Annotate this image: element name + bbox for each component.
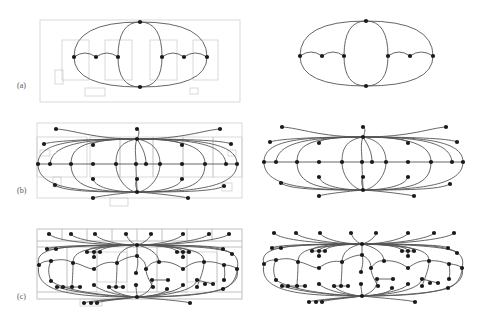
graph-node — [82, 301, 86, 305]
graph-node — [78, 285, 82, 289]
graph-node — [202, 260, 206, 264]
graph-edge — [137, 139, 237, 164]
graph-node — [361, 188, 365, 192]
graph-edge — [159, 262, 183, 269]
graph-node — [135, 137, 139, 141]
graph-node — [270, 246, 274, 250]
graph-edge — [116, 263, 117, 287]
plan-room — [153, 137, 183, 177]
graph-node — [420, 284, 424, 288]
graph-edge — [49, 261, 51, 281]
graph-node — [114, 162, 118, 166]
graph-edge — [362, 244, 429, 261]
graph-edge — [38, 139, 137, 164]
graph-node — [230, 252, 234, 256]
graph-node — [406, 160, 410, 164]
graph-node — [342, 54, 346, 58]
panel-label-a: (a) — [17, 81, 26, 90]
graph-edge — [361, 255, 363, 272]
graph-edge — [204, 262, 224, 265]
graph-edge — [300, 52, 322, 56]
graph-node — [317, 266, 321, 270]
graph-node — [262, 160, 266, 164]
graph-node — [360, 294, 364, 298]
graph-node — [91, 196, 95, 200]
graph-node — [187, 250, 191, 254]
graph-edge — [118, 22, 140, 57]
graph-node — [221, 247, 225, 251]
graph-node — [49, 259, 53, 263]
graph-edge — [363, 162, 463, 190]
graph-node — [274, 278, 278, 282]
graph-node — [360, 242, 364, 246]
graph-edge — [363, 137, 372, 162]
graph-node — [431, 54, 435, 58]
graph-edge — [344, 56, 366, 86]
graph-edge — [137, 164, 160, 192]
graph-node — [455, 140, 459, 144]
graph-edge — [362, 288, 392, 296]
graph-node — [91, 162, 95, 166]
graph-node — [428, 281, 432, 285]
graph-node — [134, 283, 138, 287]
graph-node — [317, 175, 321, 179]
graph-node — [188, 301, 192, 305]
graph-node — [94, 55, 98, 59]
graph-edge — [274, 233, 362, 244]
graph-node — [320, 54, 324, 58]
graph-edge — [263, 244, 362, 264]
graph-node — [72, 55, 76, 59]
graph-edge — [366, 56, 388, 86]
graph-edge — [300, 21, 366, 56]
graph-node — [436, 281, 440, 285]
graph-node — [298, 54, 302, 58]
graph-node — [279, 246, 283, 250]
graph-edge — [362, 279, 377, 296]
graph-node — [115, 261, 119, 265]
graph-edge — [72, 263, 73, 287]
graph-edge — [297, 262, 298, 286]
graph-node — [307, 300, 311, 304]
graph-node — [406, 141, 410, 145]
graph-node — [452, 231, 456, 235]
graph-node — [54, 127, 58, 131]
graph-node — [135, 127, 139, 131]
floor-plan-b — [37, 123, 242, 206]
plan-room — [87, 229, 112, 241]
graph-node — [157, 260, 161, 264]
graph-standalone-b — [262, 125, 465, 198]
graph-node — [427, 259, 431, 263]
graph-node — [70, 285, 74, 289]
graph-node — [360, 253, 364, 257]
graph-node — [48, 162, 52, 166]
graph-edge — [116, 139, 137, 164]
graph-node — [207, 232, 211, 236]
graph-node — [180, 143, 184, 147]
graph-node — [294, 231, 298, 235]
graph-node — [310, 249, 314, 253]
graph-node — [450, 160, 454, 164]
graph-node — [346, 284, 350, 288]
graph-edge — [276, 259, 298, 262]
graph-node — [182, 55, 186, 59]
graph-edge — [361, 137, 363, 162]
graph-standalone-c — [262, 231, 464, 304]
graph-edge — [224, 265, 225, 280]
graph-node — [360, 160, 364, 164]
graph-node — [280, 125, 284, 129]
graph-node — [49, 279, 53, 283]
graph-edge — [366, 56, 433, 86]
graph-node — [203, 282, 207, 286]
graph-edge — [38, 245, 137, 265]
graph-node — [135, 243, 139, 247]
graph-node — [92, 255, 96, 259]
graph-edge — [118, 57, 140, 87]
graph-node — [195, 278, 199, 282]
graph-node — [376, 284, 380, 288]
floor-plans — [37, 20, 242, 306]
graph-node — [135, 190, 139, 194]
graph-standalone-a — [298, 19, 435, 88]
graph-edge — [51, 260, 73, 263]
graph-node — [181, 267, 185, 271]
graph-node — [138, 85, 142, 89]
